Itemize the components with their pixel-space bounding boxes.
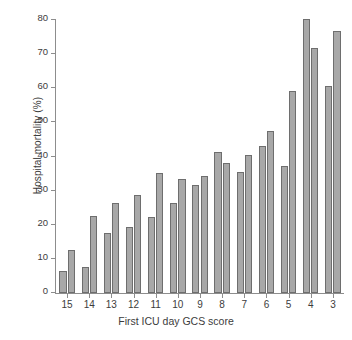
- y-axis-tick-label: 20: [37, 217, 48, 228]
- y-axis-tick: 70: [51, 53, 56, 54]
- bar: [259, 146, 266, 293]
- x-axis-tick: [244, 293, 245, 298]
- x-axis-tick: [134, 293, 135, 298]
- y-axis-tick-label: 50: [37, 114, 48, 125]
- y-axis-tick: 80: [51, 19, 56, 20]
- bar: [134, 195, 141, 293]
- bar: [311, 48, 318, 293]
- bar: [214, 152, 221, 293]
- y-axis-line: [55, 20, 56, 293]
- x-axis-title: First ICU day GCS score: [0, 315, 352, 327]
- bar: [333, 31, 340, 293]
- bar: [59, 271, 66, 293]
- plot-area: 01020304050607080 1514131211109876543: [56, 20, 344, 293]
- y-axis-tick: 40: [51, 156, 56, 157]
- x-axis-tick: [311, 293, 312, 298]
- x-axis-tick: [156, 293, 157, 298]
- bar: [267, 131, 274, 293]
- bar: [289, 91, 296, 293]
- x-axis-tick: [222, 293, 223, 298]
- x-axis-tick: [178, 293, 179, 298]
- x-axis-tick: [67, 293, 68, 298]
- x-axis-tick: [111, 293, 112, 298]
- bar: [281, 166, 288, 293]
- bar: [68, 250, 75, 293]
- bar: [90, 216, 97, 293]
- x-axis-tick: [266, 293, 267, 298]
- bar: [112, 203, 119, 293]
- x-axis-tick: [200, 293, 201, 298]
- bar: [104, 233, 111, 293]
- bar: [148, 217, 155, 293]
- y-axis-tick-label: 60: [37, 80, 48, 91]
- y-axis-tick-label: 80: [37, 12, 48, 23]
- bar: [303, 19, 310, 293]
- bar: [170, 203, 177, 293]
- x-axis-tick: [89, 293, 90, 298]
- chart-figure: Hospital mortality (%) 01020304050607080…: [0, 0, 352, 340]
- y-axis-tick-label: 40: [37, 149, 48, 160]
- bar: [192, 185, 199, 293]
- y-axis-tick: 60: [51, 87, 56, 88]
- y-axis-tick: 50: [51, 121, 56, 122]
- bar: [201, 176, 208, 293]
- y-axis-tick-label: 70: [37, 46, 48, 57]
- bar: [223, 163, 230, 293]
- bar: [245, 155, 252, 293]
- bar: [237, 172, 244, 293]
- bar: [178, 179, 185, 293]
- bar: [156, 173, 163, 293]
- y-axis-tick: 0: [51, 292, 56, 293]
- bar: [126, 227, 133, 293]
- y-axis-tick-label: 0: [43, 285, 48, 296]
- x-axis-tick-label: 3: [320, 299, 346, 310]
- x-axis-tick: [289, 293, 290, 298]
- y-axis-tick-label: 30: [37, 183, 48, 194]
- y-axis-tick: 20: [51, 224, 56, 225]
- y-axis-tick: 10: [51, 258, 56, 259]
- bar: [82, 267, 89, 293]
- y-axis-tick: 30: [51, 190, 56, 191]
- y-axis-tick-label: 10: [37, 251, 48, 262]
- y-axis-title: Hospital mortality (%): [32, 46, 43, 246]
- bar: [325, 86, 332, 293]
- x-axis-tick: [333, 293, 334, 298]
